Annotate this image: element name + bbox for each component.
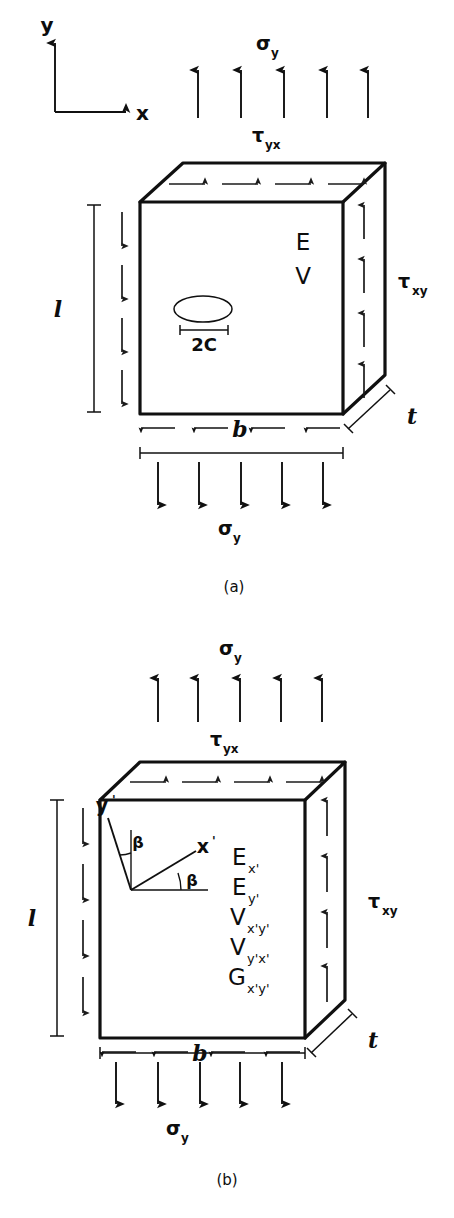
tau-subscript: yx [223, 742, 239, 756]
panel-a: σ y τ yx [54, 32, 428, 596]
beta-label-upper: β [132, 833, 143, 852]
panel-a-top-load-arrows [198, 70, 368, 118]
material-prop-subscript: x' [248, 861, 259, 876]
sigma-symbol: σ [218, 517, 233, 539]
global-axes: y x [40, 13, 149, 125]
tau-subscript: xy [382, 904, 398, 918]
panel-a-height-dimension: l [54, 205, 101, 412]
panel-a-top-stress-label: σ y [256, 32, 279, 60]
local-x-axis-label: x [197, 835, 209, 857]
sigma-symbol: σ [166, 1117, 181, 1139]
panel-a-top-shear-label: τ yx [252, 124, 281, 152]
tau-subscript: xy [412, 284, 428, 298]
sigma-symbol: σ [256, 32, 271, 54]
material-prop-subscript: y' [248, 891, 259, 906]
sigma-subscript: y [234, 651, 242, 665]
panel-a-caption: (a) [224, 578, 245, 596]
material-prop-subscript: y'x' [247, 951, 270, 966]
thickness-dim-label: t [407, 403, 417, 429]
tau-symbol: τ [252, 124, 264, 146]
height-dim-label: l [54, 296, 62, 322]
local-y-axis-prime: ' [112, 793, 116, 807]
panel-b-bottom-stress-label: σ y [166, 1117, 189, 1145]
panel-b: σ y τ yx [28, 637, 398, 1189]
box-front-face [140, 202, 343, 414]
material-prop-V: V [295, 263, 311, 289]
material-prop-subscript: x'y' [247, 921, 270, 936]
tau-symbol: τ [398, 270, 410, 292]
sigma-symbol: σ [219, 637, 234, 659]
y-axis-label: y [40, 13, 53, 37]
panel-b-top-load-arrows [158, 678, 322, 722]
material-prop-symbol: V [230, 904, 246, 930]
material-prop-symbol: G [228, 964, 246, 990]
sigma-subscript: y [181, 1131, 189, 1145]
box-right-face [305, 762, 345, 1038]
material-prop-symbol: E [232, 874, 247, 900]
panel-b-bottom-load-arrows [116, 1062, 282, 1104]
panel-b-top-shear-label: τ yx [210, 728, 239, 756]
tau-subscript: yx [265, 138, 281, 152]
panel-a-box [140, 163, 385, 414]
thickness-dim-label: t [368, 1027, 378, 1053]
panel-a-bottom-load-arrows [158, 462, 323, 505]
panel-b-caption: (b) [216, 1171, 237, 1189]
sigma-subscript: y [233, 531, 241, 545]
crack-dim-label: 2C [191, 334, 217, 355]
height-dim-label: l [28, 905, 36, 931]
tau-symbol: τ [368, 890, 380, 912]
material-prop-subscript: x'y' [247, 981, 270, 996]
beta-label-lower: β [186, 871, 197, 890]
material-prop-symbol: V [230, 934, 246, 960]
panel-a-right-shear-label: τ xy [398, 270, 428, 298]
material-prop-E: E [296, 229, 311, 255]
panel-a-width-dimension: b [141, 416, 340, 442]
panel-a-bottom-stress-label: σ y [218, 517, 241, 545]
local-x-axis-prime: ' [212, 834, 216, 848]
engineering-figure: y x σ y τ yx [0, 0, 454, 1218]
tau-symbol: τ [210, 728, 222, 750]
panel-b-right-shear-label: τ xy [368, 890, 398, 918]
panel-a-bottom-span [140, 447, 343, 459]
panel-b-top-stress-label: σ y [219, 637, 242, 665]
panel-b-box [100, 762, 345, 1038]
width-dim-label: b [232, 416, 247, 442]
material-prop-symbol: E [232, 844, 247, 870]
sigma-subscript: y [271, 46, 279, 60]
panel-b-height-dimension: l [28, 800, 64, 1036]
local-y-axis-label: y [96, 794, 109, 816]
x-axis-label: x [136, 101, 149, 125]
box-top-face [100, 762, 345, 800]
